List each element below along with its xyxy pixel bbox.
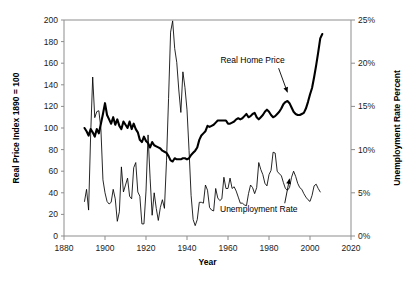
x-tick-label: 1920	[137, 243, 156, 253]
y-tick-label: 160	[44, 58, 58, 68]
y-tick-label: 60	[49, 166, 59, 176]
y2-tick-label: 15%	[358, 101, 375, 111]
y2-tick-label: 5%	[358, 188, 371, 198]
annotation-label: Unemployment Rate	[220, 204, 298, 214]
home-price-unemployment-chart: 020406080100120140160180200 0%5%10%15%20…	[0, 0, 418, 281]
x-tick-label: 2020	[342, 243, 361, 253]
y2-tick-label: 0%	[358, 231, 371, 241]
y-tick-label: 80	[49, 145, 59, 155]
x-tick-label: 1900	[96, 243, 115, 253]
x-tick-label: 1880	[55, 243, 74, 253]
y-tick-label: 200	[44, 15, 58, 25]
y2-axis-title: Unemployment Rate Percent	[392, 70, 402, 186]
y-tick-label: 40	[49, 188, 59, 198]
y-tick-label: 100	[44, 123, 58, 133]
y-tick-label: 140	[44, 80, 58, 90]
annotation-label: Real Home Price	[220, 55, 285, 65]
x-tick-label: 2000	[301, 243, 320, 253]
y-tick-label: 0	[53, 231, 58, 241]
series-line-real-home-price	[85, 34, 323, 161]
x-tick-label: 1980	[260, 243, 279, 253]
bottom-axis-ticks: 18801900192019401960198020002020	[55, 236, 361, 253]
y2-tick-label: 25%	[358, 15, 375, 25]
y-tick-label: 180	[44, 37, 58, 47]
y-axis-title: Real Price Index 1890 = 100	[11, 72, 21, 183]
annotation-group: Real Home PriceUnemployment Rate	[220, 55, 298, 214]
chart-container: 020406080100120140160180200 0%5%10%15%20…	[0, 0, 418, 281]
right-axis-ticks: 0%5%10%15%20%25%	[351, 15, 375, 241]
y-tick-label: 120	[44, 101, 58, 111]
x-tick-label: 1940	[178, 243, 197, 253]
left-axis-ticks: 020406080100120140160180200	[44, 15, 64, 241]
x-axis-title: Year	[199, 257, 218, 267]
y2-tick-label: 20%	[358, 58, 375, 68]
annotation-arrowhead	[286, 179, 291, 184]
series-line-unemployment-rate	[85, 21, 321, 226]
x-tick-label: 1960	[219, 243, 238, 253]
annotation-arrowhead	[283, 87, 288, 93]
y2-tick-label: 10%	[358, 145, 375, 155]
y-tick-label: 20	[49, 209, 59, 219]
